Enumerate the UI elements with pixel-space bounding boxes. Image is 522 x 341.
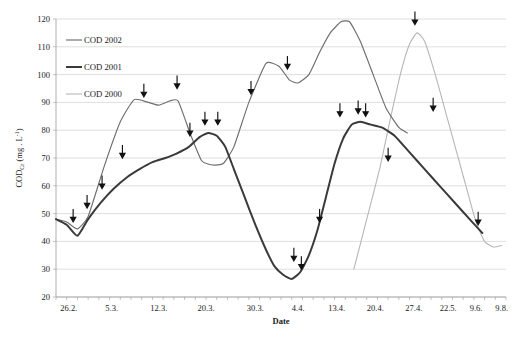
down-arrow-icon [363,103,368,116]
chart-figure: 1201101009080706050403020 26.2.5.3.12.3.… [0,0,522,341]
down-arrow-icon [285,56,290,69]
legend-item-cod-2002[interactable]: COD 2002 [66,35,122,45]
gridlines-group [56,19,506,297]
arrow-head [412,20,417,25]
y-tick-labels-group: 1201101009080706050403020 [37,14,50,302]
x-tick-label: 4.4. [292,303,305,313]
arrow-head [291,256,296,261]
line-chart-canvas: 1201101009080706050403020 26.2.5.3.12.3.… [0,0,522,341]
y-tick-label: 20 [42,292,51,302]
down-arrow-icon [291,248,296,261]
arrow-head [187,131,192,136]
arrow-head [317,217,322,222]
x-tick-label: 30.3. [247,303,264,313]
y-tick-label: 70 [42,153,51,163]
y-tick-label: 110 [38,42,50,52]
y-tick-label: 80 [42,125,51,135]
x-tick-label: 26.2. [60,303,77,313]
arrow-head [285,64,290,69]
down-arrow-icon [431,98,436,111]
down-arrow-icon [71,209,76,222]
x-tick-label: 9.6. [470,303,483,313]
down-arrow-icon [337,103,342,116]
arrow-head [337,112,342,117]
y-tick-label: 120 [37,14,50,24]
down-arrow-icon [202,112,207,125]
arrow-head [202,120,207,125]
x-tick-label: 5.3. [105,303,118,313]
arrow-head [141,92,146,97]
arrow-head [356,109,361,114]
y-tick-label: 50 [42,209,51,219]
down-arrow-icon [84,195,89,208]
y-axis-title: CODCr (mg . L-1) [14,128,25,187]
x-tick-label: 20.3. [198,303,215,313]
arrow-head [99,184,104,189]
down-arrow-icon [215,112,220,125]
down-arrow-icon [386,148,391,161]
series-line-cod-2000 [354,33,502,269]
down-arrow-icon [174,76,179,89]
down-arrow-icon [412,12,417,25]
down-arrow-icon [120,145,125,158]
y-tick-label: 30 [42,264,51,274]
y-tick-label: 40 [42,236,51,246]
sampling-point-arrows-group [71,12,481,270]
x-tick-label: 20.4. [367,303,384,313]
legend-label: COD 2000 [84,89,123,99]
y-tick-marks-group [53,19,56,297]
arrow-head [386,156,391,161]
arrow-head [120,153,125,158]
legend-label: COD 2001 [84,62,122,72]
arrow-head [431,106,436,111]
x-axis-title: Date [273,316,290,326]
x-tick-label: 12.3. [150,303,167,313]
series-line-cod-2002 [56,21,407,229]
arrow-head [71,217,76,222]
x-tick-marks-group [56,297,506,300]
x-tick-label: 27.4. [405,303,422,313]
series-line-cod-2001 [56,122,482,279]
x-tick-labels-group: 26.2.5.3.12.3.20.3.30.3.4.4.13.4.20.4.27… [60,303,508,313]
y-tick-label: 60 [42,181,51,191]
x-tick-label: 22.5. [440,303,457,313]
x-tick-label: 9.8. [495,303,508,313]
legend: COD 2002COD 2001COD 2000 [66,35,123,99]
y-tick-label: 100 [37,70,50,80]
legend-item-cod-2001[interactable]: COD 2001 [66,62,122,72]
y-tick-label: 90 [42,97,51,107]
down-arrow-icon [141,84,146,97]
arrow-head [215,120,220,125]
arrow-head [174,84,179,89]
arrow-head [84,203,89,208]
x-tick-label: 13.4. [328,303,345,313]
legend-item-cod-2000[interactable]: COD 2000 [66,89,123,99]
arrow-head [363,112,368,117]
legend-label: COD 2002 [84,35,122,45]
